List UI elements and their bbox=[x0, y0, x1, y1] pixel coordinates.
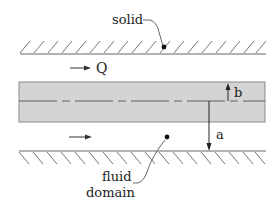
top-wall-hatching bbox=[20, 41, 266, 53]
solid-point-dot bbox=[162, 45, 167, 50]
dimension-b-label: b bbox=[234, 85, 242, 100]
fluid-point-dot bbox=[165, 135, 170, 140]
dimension-a-label: a bbox=[216, 127, 224, 142]
fluid-label-line2: domain bbox=[86, 185, 135, 200]
solid-leader-line bbox=[143, 20, 163, 46]
flow-arrow-icon bbox=[70, 66, 91, 71]
fluid-leader-line bbox=[133, 140, 165, 183]
solid-label: solid bbox=[112, 12, 143, 27]
lower-flow-arrow-icon bbox=[69, 135, 92, 140]
channel-diagram: solid Q b a bbox=[0, 0, 280, 211]
bottom-wall-hatching bbox=[19, 152, 265, 164]
top-wall bbox=[20, 41, 266, 54]
flow-label-q: Q bbox=[96, 60, 107, 76]
bottom-wall bbox=[19, 151, 266, 164]
fluid-label-line1: fluid bbox=[102, 169, 132, 184]
